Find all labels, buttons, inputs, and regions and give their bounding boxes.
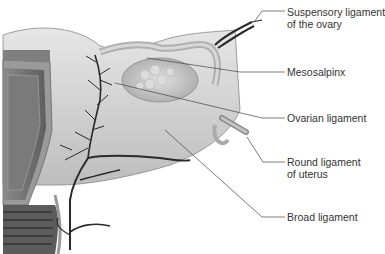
label-broad-ligament: Broad ligament xyxy=(287,211,358,223)
label-ovarian-ligament: Ovarian ligament xyxy=(287,112,366,124)
label-suspensory-ligament: Suspensory ligament of the ovary xyxy=(287,6,385,30)
label-mesosalpinx: Mesosalpinx xyxy=(287,66,345,78)
label-round-ligament: Round ligament of uterus xyxy=(287,156,361,180)
leader-round xyxy=(247,137,285,162)
